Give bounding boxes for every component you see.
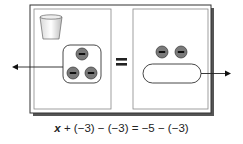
negative-tile [76,48,88,60]
right-panel [133,9,208,109]
minus-icon [79,53,85,55]
right-arrow-head [225,71,231,77]
minus-icon [159,51,165,53]
minus-icon [88,72,94,74]
minus-icon [178,51,184,53]
minus-icon [70,72,76,74]
right-tile-group [143,64,201,83]
cup-icon [40,15,62,39]
negative-tile [67,67,79,79]
left-arrow-head [12,64,18,70]
negative-tile [156,46,168,58]
equation: x + (−3) − (−3) = −5 − (−3) [0,122,243,134]
equation-rest: + (−3) − (−3) = −5 − (−3) [61,122,189,134]
negative-tile [85,67,97,79]
negative-tile [175,46,187,58]
